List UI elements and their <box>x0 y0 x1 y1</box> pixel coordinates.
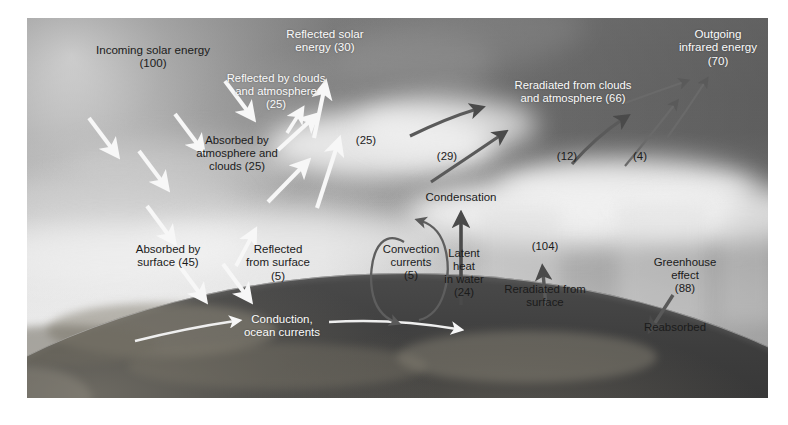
label-value-104: (104) <box>532 240 559 253</box>
label-absorbed-by-atmosphere: Absorbed by atmosphere and clouds (25) <box>196 134 278 173</box>
label-reflected-solar-energy: Reflected solar energy (30) <box>286 27 363 54</box>
label-value-25-reflected: (25) <box>356 134 376 147</box>
label-latent-heat-in-water: Latent heat in water (24) <box>444 247 484 299</box>
label-value-12: (12) <box>557 150 577 163</box>
label-greenhouse-effect: Greenhouse effect (88) <box>654 256 717 296</box>
earth-energy-budget-figure: Incoming solar energy (100) Reflected by… <box>27 18 768 398</box>
label-value-29: (29) <box>437 150 457 163</box>
label-condensation: Condensation <box>426 191 497 204</box>
label-outgoing-infrared-energy: Outgoing infrared energy (70) <box>679 27 757 67</box>
label-convection-currents: Convection currents (5) <box>383 243 440 282</box>
label-absorbed-by-surface: Absorbed by surface (45) <box>136 243 201 270</box>
label-conduction-ocean-currents: Conduction, ocean currents <box>244 313 320 340</box>
label-value-4: (4) <box>633 150 647 163</box>
label-reflected-by-clouds: Reflected by clouds and atmosphere (25) <box>227 72 326 111</box>
label-reabsorbed: Reabsorbed <box>644 321 706 334</box>
diagram-canvas: Incoming solar energy (100) Reflected by… <box>0 0 788 425</box>
energy-flow-arrows <box>27 18 768 398</box>
label-reradiated-from-clouds: Reradiated from clouds and atmosphere (6… <box>515 79 632 105</box>
label-reradiated-from-surface: Reradiated from surface <box>504 283 586 309</box>
label-incoming-solar-energy: Incoming solar energy (100) <box>96 43 210 70</box>
reradiated-from-clouds-arrows <box>410 109 623 182</box>
label-reflected-from-surface: Reflected from surface (5) <box>246 243 310 283</box>
